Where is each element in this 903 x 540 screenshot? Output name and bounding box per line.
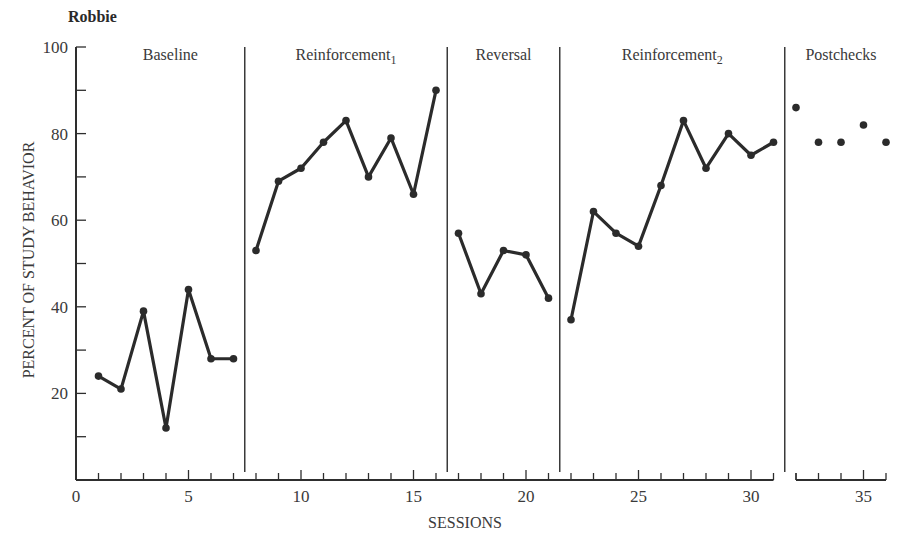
data-point — [117, 385, 125, 393]
data-point — [95, 372, 103, 380]
y-axis: 20406080100 — [43, 38, 87, 480]
x-tick-label: 35 — [855, 487, 872, 506]
series-postchecks — [792, 104, 890, 146]
subject-name: Robbie — [68, 8, 117, 25]
data-point — [657, 182, 665, 190]
data-point — [567, 316, 575, 324]
y-tick-label: 60 — [51, 211, 68, 230]
data-point — [140, 307, 148, 315]
data-point — [702, 164, 710, 172]
x-axis-title: SESSIONS — [428, 514, 502, 531]
data-point — [635, 242, 643, 250]
x-tick-label: 15 — [405, 487, 422, 506]
data-point — [837, 138, 845, 146]
x-tick-label: 30 — [743, 487, 760, 506]
series-reinforcement2 — [567, 117, 777, 324]
data-point — [612, 229, 620, 237]
phase-label-reinforcement2: Reinforcement2 — [622, 46, 723, 67]
phase-labels: BaselineReinforcement1ReversalReinforcem… — [143, 46, 877, 67]
x-tick-label: 0 — [72, 487, 81, 506]
x-tick-label: 25 — [630, 487, 647, 506]
data-point — [815, 138, 823, 146]
phase-label-baseline: Baseline — [143, 46, 198, 63]
data-point — [432, 87, 440, 95]
y-tick-label: 40 — [51, 298, 68, 317]
data-point — [275, 177, 283, 185]
data-point — [680, 117, 688, 125]
data-point — [747, 151, 755, 159]
phase-change-lines — [245, 47, 785, 472]
data-point — [320, 138, 328, 146]
x-axis: 05101520253035 — [72, 470, 886, 506]
data-point — [410, 190, 418, 198]
data-point — [882, 138, 890, 146]
data-point — [545, 294, 553, 302]
data-point — [185, 286, 193, 294]
x-tick-label: 5 — [184, 487, 193, 506]
data-point — [387, 134, 395, 142]
phase-label-postchecks: Postchecks — [805, 46, 876, 63]
data-point — [860, 121, 868, 129]
series-reversal — [455, 229, 553, 302]
data-point — [500, 247, 508, 255]
single-subject-chart: Robbie 20406080100 05101520253035 Baseli… — [0, 0, 903, 540]
x-tick-label: 20 — [518, 487, 535, 506]
series-baseline — [95, 286, 238, 432]
x-tick-label: 10 — [293, 487, 310, 506]
data-point — [770, 138, 778, 146]
data-point — [207, 355, 215, 363]
data-point — [590, 208, 598, 216]
phase-label-reversal: Reversal — [476, 46, 533, 63]
y-tick-label: 80 — [51, 125, 68, 144]
data-point — [297, 164, 305, 172]
y-tick-label: 20 — [51, 384, 68, 403]
data-point — [792, 104, 800, 112]
data-point — [252, 247, 260, 255]
y-axis-title: PERCENT OF STUDY BEHAVIOR — [20, 141, 37, 378]
series-reinforcement1 — [252, 87, 440, 255]
data-point — [342, 117, 350, 125]
phase-label-reinforcement1: Reinforcement1 — [295, 46, 396, 67]
data-point — [230, 355, 238, 363]
data-point — [477, 290, 485, 298]
data-point — [522, 251, 530, 259]
y-tick-label: 100 — [43, 38, 69, 57]
data-point — [455, 229, 463, 237]
data-series — [95, 87, 890, 432]
data-point — [725, 130, 733, 138]
data-point — [162, 424, 170, 432]
data-point — [365, 173, 373, 181]
